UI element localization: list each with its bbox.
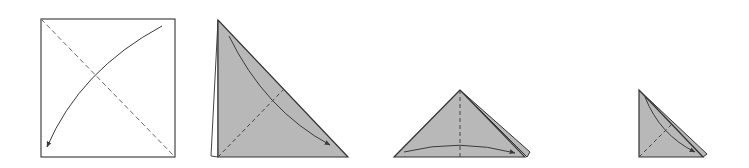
paper-triangle (639, 90, 703, 157)
step-1-square (41, 19, 175, 157)
step-2-triangle (211, 20, 348, 157)
step-4-triangle (639, 90, 707, 157)
step-3-triangle (394, 90, 530, 160)
origami-diagram (0, 0, 749, 168)
back-flap (211, 20, 218, 157)
